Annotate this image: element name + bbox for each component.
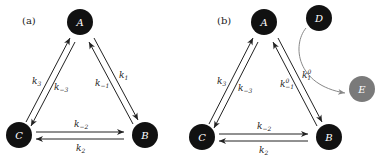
rate-km3: k−3 <box>238 83 252 94</box>
svg-text:D: D <box>314 13 323 24</box>
rate-k1-0: k01 <box>302 68 311 81</box>
svg-text:B: B <box>324 132 332 143</box>
panel-a: (a) k3 k−3 k1 k−1 k−2 k2 A C B <box>6 9 158 154</box>
rate-km2: k−2 <box>74 119 88 130</box>
svg-text:E: E <box>357 84 366 95</box>
node-a: A <box>251 9 277 35</box>
svg-text:B: B <box>140 130 148 141</box>
edge-d-to-e <box>299 28 345 93</box>
svg-text:A: A <box>259 17 267 28</box>
svg-text:C: C <box>198 132 206 143</box>
edge-a-to-b <box>94 38 138 120</box>
node-d: D <box>306 5 332 31</box>
node-c: C <box>189 124 215 150</box>
rate-k2: k2 <box>259 145 268 156</box>
node-c: C <box>6 122 32 148</box>
rate-km3: k−3 <box>54 82 68 93</box>
rate-km2: k−2 <box>257 121 271 132</box>
panel-b: (b) k3 k−3 k01 k0−1 k−2 k2 A C B <box>189 5 375 156</box>
panel-label-a: (a) <box>22 15 36 26</box>
edge-c-to-a <box>209 38 253 124</box>
rate-k2: k2 <box>76 143 85 154</box>
svg-text:C: C <box>15 130 23 141</box>
node-a: A <box>67 9 93 35</box>
rate-k1: k1 <box>119 70 128 81</box>
rate-k3: k3 <box>32 76 41 87</box>
rate-k3: k3 <box>217 76 226 87</box>
node-b: B <box>316 124 342 150</box>
rate-km1: k−1 <box>95 78 109 89</box>
reaction-network-diagram: (a) k3 k−3 k1 k−1 k−2 k2 A C B (b) <box>0 0 380 160</box>
svg-text:A: A <box>75 17 83 28</box>
node-e: E <box>349 76 375 102</box>
node-b: B <box>132 122 158 148</box>
panel-label-b: (b) <box>217 15 231 26</box>
